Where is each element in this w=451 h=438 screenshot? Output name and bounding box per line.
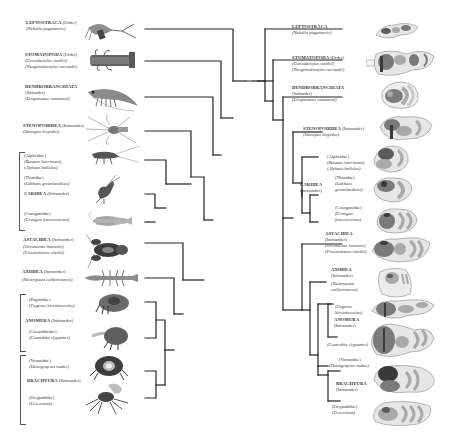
right-label-alpheidae: (Alpheidae) (Betaeus harrimani) (Alpheus…: [327, 154, 364, 172]
brain-uca: [372, 398, 434, 428]
right-label-stomatopoda: STOMATOPODA (Order) (Gonodactylus smithi…: [292, 55, 344, 73]
right-label-thoridae: (Thoridae) (Lebbeus groenlandicus): [335, 175, 363, 193]
right-label-axiidea: AXIIDEA (Infraorder) (Neotrypaea califor…: [331, 267, 358, 293]
brain-dendrobranchiata: [378, 78, 422, 112]
right-label-stenopodidea: STENOPODIDEA (Infraorder) (Stenopus hisp…: [303, 126, 364, 138]
right-label-dendrobranchiata: DENDROBRANCHIATA (Suborder) (Litopenaeus…: [292, 85, 344, 103]
brain-stenopodidea: [378, 113, 434, 143]
brain-stomatopoda: [366, 46, 436, 80]
right-label-anomura: ANOMURA (Infraorder): [334, 317, 359, 329]
right-label-leptostraca: LEPTOSTRACA (Nebalia pugettensis): [292, 24, 331, 36]
right-label-pagurus: (Pagurus hirsutiusculus): [335, 304, 362, 316]
brain-crangonidae: [375, 205, 419, 235]
brain-hemigrapsus: [372, 362, 436, 396]
brain-coenobita: [370, 320, 436, 360]
brain-axiidea: [376, 264, 416, 300]
right-label-varunidae: (Varunidae) (Hemigrapsus nudus): [329, 357, 369, 369]
right-label-caridea: CARIDEA (Infraorder): [300, 182, 322, 194]
right-label-brachyura: BRACHYURA (Infraorder): [336, 381, 367, 393]
brain-thoridae: [372, 174, 414, 204]
right-label-ocypodidae: (Ocypodidae) (Uca minax): [332, 404, 357, 416]
right-label-crangonidae: (Crangonidae) (Crangon franciscorum): [335, 205, 362, 223]
left-cladogram: [145, 29, 245, 398]
right-label-coenobita: (Coenobita clypeatus): [327, 342, 368, 348]
brain-leptostraca: [374, 21, 420, 41]
brain-astacidea: [370, 233, 432, 265]
brain-alpheidae: [372, 142, 412, 174]
right-label-astacidea: ASTACIDEA (Infraorder) (Orconectes immun…: [325, 231, 366, 255]
